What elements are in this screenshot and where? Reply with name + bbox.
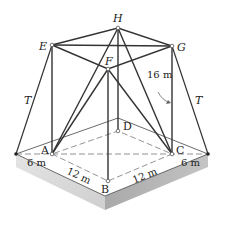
label-A: A (40, 144, 50, 157)
right-cable (172, 46, 208, 154)
joint-D (116, 129, 120, 133)
label-F: F (104, 55, 113, 68)
label-D: D (123, 120, 132, 133)
label-C: C (176, 144, 184, 157)
joint-E (50, 43, 54, 47)
dim-height: 16 m (147, 69, 173, 80)
dim-right-offset: 6 m (181, 157, 201, 168)
label-G: G (177, 41, 186, 54)
joint-H (116, 26, 120, 30)
left-anchor (14, 152, 18, 156)
joint-A (50, 152, 54, 156)
dim-left-offset: 6 m (27, 157, 47, 168)
joint-C (170, 152, 174, 156)
joint-G (170, 44, 174, 48)
left-cable (16, 45, 52, 154)
arrowhead-icon (166, 100, 171, 104)
label-H: H (112, 12, 123, 25)
label-E: E (38, 40, 47, 53)
right-anchor (206, 152, 210, 156)
truss-diagram: H E G F A B C D T T 16 m 6 m 6 m 12 m 12… (0, 0, 227, 234)
label-B: B (101, 183, 109, 196)
label-right-tension: T (195, 94, 204, 107)
